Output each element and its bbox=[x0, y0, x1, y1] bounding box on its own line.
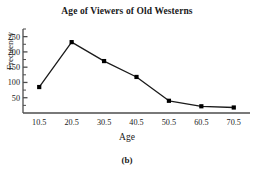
x-tick-label: 20.5 bbox=[64, 118, 78, 127]
frequency-polygon-chart: 5010015020025010.520.530.540.550.560.570… bbox=[0, 22, 254, 130]
x-tick-label: 70.5 bbox=[227, 118, 241, 127]
x-tick-label: 40.5 bbox=[129, 118, 143, 127]
y-axis-label: Frequency bbox=[5, 20, 15, 82]
x-tick-label: 50.5 bbox=[162, 118, 176, 127]
figure-caption: (b) bbox=[0, 155, 254, 165]
data-point-marker bbox=[199, 104, 203, 108]
data-point-marker bbox=[134, 75, 138, 79]
x-axis-label: Age bbox=[0, 132, 254, 142]
data-point-marker bbox=[37, 85, 41, 89]
data-point-marker bbox=[167, 99, 171, 103]
chart-title: Age of Viewers of Old Westerns bbox=[0, 6, 254, 16]
data-line bbox=[39, 42, 234, 107]
figure-panel: Age of Viewers of Old Westerns 501001502… bbox=[0, 0, 254, 173]
x-tick-label: 30.5 bbox=[97, 118, 111, 127]
data-point-marker bbox=[102, 59, 106, 63]
data-point-marker bbox=[70, 40, 74, 44]
x-tick-label: 60.5 bbox=[194, 118, 208, 127]
data-point-marker bbox=[232, 105, 236, 109]
plot-area: 5010015020025010.520.530.540.550.560.570… bbox=[0, 22, 254, 130]
x-tick-label: 10.5 bbox=[32, 118, 46, 127]
y-tick-label: 50 bbox=[12, 94, 20, 103]
